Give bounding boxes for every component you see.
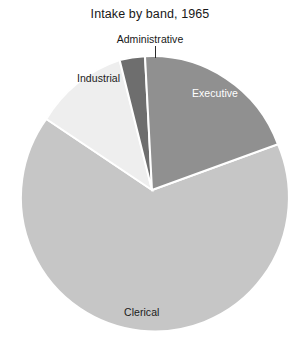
leader-line-administrative — [155, 46, 156, 58]
pie-label-executive: Executive — [192, 87, 238, 99]
pie-label-clerical: Clerical — [124, 306, 159, 318]
pie-graphic — [0, 0, 300, 345]
pie-chart: Intake by band, 1965 Administrative Indu… — [0, 0, 300, 345]
pie-label-industrial: Industrial — [77, 72, 120, 84]
pie-label-administrative: Administrative — [0, 33, 300, 45]
